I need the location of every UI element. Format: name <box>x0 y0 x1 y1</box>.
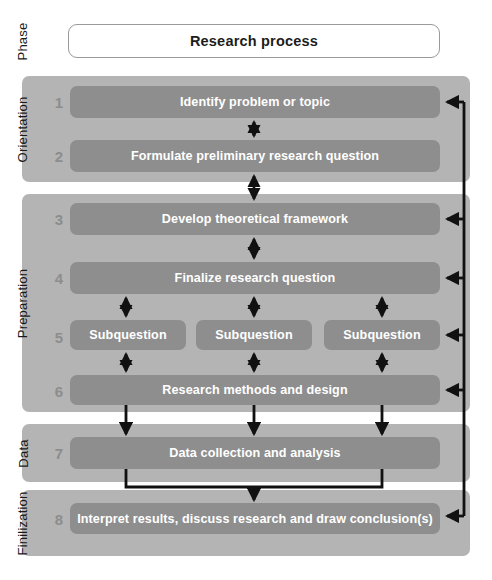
subquestion-label-1: Subquestion <box>89 328 166 342</box>
step-box-6[interactable]: Research methods and design <box>70 375 440 405</box>
step-number-2: 2 <box>50 149 68 164</box>
step-box-4[interactable]: Finalize research question <box>70 262 440 294</box>
step-number-6: 6 <box>50 384 68 399</box>
step-box-5-subquestion-1[interactable]: Subquestion <box>70 320 186 350</box>
page-title: Research process <box>190 33 318 49</box>
step-box-2[interactable]: Formulate preliminary research question <box>70 140 440 172</box>
step-number-8: 8 <box>50 512 68 527</box>
step-label-8: Interpret results, discuss research and … <box>77 512 433 526</box>
step-number-7: 7 <box>50 446 68 461</box>
step-box-5-subquestion-2[interactable]: Subquestion <box>196 320 312 350</box>
axis-label-phase: Phase <box>0 24 46 58</box>
research-process-diagram: Phase Research process Orientation 1 Ide… <box>0 0 492 580</box>
step-label-1: Identify problem or topic <box>180 95 330 109</box>
step-box-5-subquestion-3[interactable]: Subquestion <box>324 320 440 350</box>
subquestion-label-3: Subquestion <box>343 328 420 342</box>
header-research-process: Research process <box>68 24 440 58</box>
step-number-1: 1 <box>50 95 68 110</box>
step-box-1[interactable]: Identify problem or topic <box>70 86 440 118</box>
step-label-6: Research methods and design <box>162 383 347 397</box>
step-box-7[interactable]: Data collection and analysis <box>70 437 440 469</box>
step-label-4: Finalize research question <box>175 271 336 285</box>
step-box-8[interactable]: Interpret results, discuss research and … <box>70 503 440 534</box>
step-label-3: Develop theoretical framework <box>162 212 348 226</box>
step-number-5: 5 <box>50 330 68 345</box>
step-number-4: 4 <box>50 271 68 286</box>
subquestion-label-2: Subquestion <box>215 328 292 342</box>
step-label-7: Data collection and analysis <box>169 446 340 460</box>
step-label-2: Formulate preliminary research question <box>131 149 379 163</box>
step-number-3: 3 <box>50 212 68 227</box>
step-box-3[interactable]: Develop theoretical framework <box>70 203 440 235</box>
